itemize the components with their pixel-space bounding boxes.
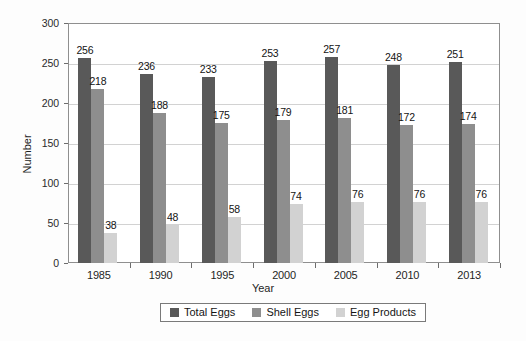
- y-axis-label: Number: [21, 114, 33, 194]
- bar-value-label: 38: [98, 220, 124, 231]
- legend-item[interactable]: Egg Products: [336, 307, 416, 318]
- x-tick-label: 2013: [438, 269, 500, 281]
- y-tick-mark: [64, 63, 68, 64]
- bar-value-label: 253: [257, 48, 283, 59]
- bar: [153, 113, 166, 263]
- bar: [449, 62, 462, 263]
- bar: [202, 77, 215, 263]
- x-tick-mark: [500, 263, 501, 268]
- x-tick-mark: [253, 263, 254, 268]
- bar-chart: 050100150200250300 Number 25621838236188…: [0, 0, 526, 341]
- y-tick-label: 100: [29, 178, 59, 189]
- bar-value-label: 236: [134, 61, 160, 72]
- bar-value-label: 48: [160, 212, 186, 223]
- x-tick-label: 2000: [253, 269, 315, 281]
- gridline: [69, 104, 499, 105]
- x-tick-label: 1990: [130, 269, 192, 281]
- legend-swatch-icon: [252, 308, 261, 317]
- x-tick-mark: [315, 263, 316, 268]
- chart-legend: Total EggsShell EggsEgg Products: [160, 303, 426, 322]
- bar-value-label: 218: [85, 76, 111, 87]
- y-tick-mark: [64, 183, 68, 184]
- bar-value-label: 58: [221, 204, 247, 215]
- bar-value-label: 257: [319, 44, 345, 55]
- bar: [264, 61, 277, 263]
- bar-value-label: 233: [195, 64, 221, 75]
- y-tick-label: 0: [29, 258, 59, 269]
- bar-value-label: 251: [442, 49, 468, 60]
- bar: [215, 123, 228, 263]
- y-tick-mark: [64, 263, 68, 264]
- bar-value-label: 248: [380, 52, 406, 63]
- bar: [166, 225, 179, 263]
- bar: [78, 58, 91, 263]
- x-tick-label: 2010: [377, 269, 439, 281]
- x-tick-mark: [438, 263, 439, 268]
- bar: [387, 65, 400, 263]
- legend-item[interactable]: Total Eggs: [170, 307, 235, 318]
- legend-swatch-icon: [170, 308, 179, 317]
- y-tick-label: 300: [29, 18, 59, 29]
- bar-value-label: 256: [72, 45, 98, 56]
- bar: [228, 217, 241, 263]
- bar: [290, 204, 303, 263]
- legend-item[interactable]: Shell Eggs: [252, 307, 319, 318]
- bar-value-label: 181: [332, 105, 358, 116]
- y-tick-mark: [64, 223, 68, 224]
- bar-value-label: 174: [455, 111, 481, 122]
- legend-label: Total Eggs: [184, 307, 235, 318]
- bar-value-label: 179: [270, 107, 296, 118]
- x-tick-label: 1995: [191, 269, 253, 281]
- x-tick-mark: [130, 263, 131, 268]
- bar: [413, 202, 426, 263]
- y-tick-mark: [64, 103, 68, 104]
- bar-value-label: 74: [283, 191, 309, 202]
- bar-value-label: 76: [345, 189, 371, 200]
- x-tick-mark: [191, 263, 192, 268]
- bar-value-label: 175: [208, 110, 234, 121]
- bar: [104, 233, 117, 263]
- y-tick-label: 50: [29, 218, 59, 229]
- bar-value-label: 76: [468, 189, 494, 200]
- legend-label: Egg Products: [350, 307, 416, 318]
- y-tick-mark: [64, 143, 68, 144]
- bar-value-label: 188: [147, 100, 173, 111]
- bar: [325, 57, 338, 263]
- bar: [475, 202, 488, 263]
- legend-label: Shell Eggs: [266, 307, 319, 318]
- y-tick-label: 150: [29, 138, 59, 149]
- x-tick-label: 1985: [68, 269, 130, 281]
- bar: [351, 202, 364, 263]
- bar-value-label: 76: [406, 189, 432, 200]
- bar-value-label: 172: [393, 112, 419, 123]
- x-tick-label: 2005: [315, 269, 377, 281]
- bar: [91, 89, 104, 263]
- y-tick-label: 200: [29, 98, 59, 109]
- x-axis-label: Year: [0, 282, 526, 294]
- legend-swatch-icon: [336, 308, 345, 317]
- y-tick-label: 250: [29, 58, 59, 69]
- x-tick-mark: [377, 263, 378, 268]
- y-tick-mark: [64, 23, 68, 24]
